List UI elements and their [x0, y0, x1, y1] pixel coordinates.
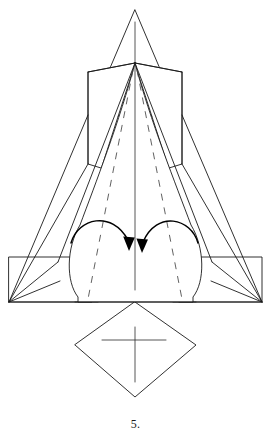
step-caption: 5. [0, 417, 271, 432]
bottom-diamond [75, 302, 196, 397]
origami-diagram-figure: 5. [0, 0, 271, 438]
origami-diagram-canvas [0, 0, 271, 438]
